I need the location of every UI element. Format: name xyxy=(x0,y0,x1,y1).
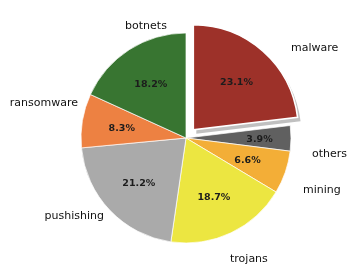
value-label-botnets: 18.2% xyxy=(134,78,167,89)
value-label-pushishing: 21.2% xyxy=(122,177,155,188)
value-label-ransomware: 8.3% xyxy=(109,122,136,133)
category-label-botnets: botnets xyxy=(125,19,167,32)
value-label-mining: 6.6% xyxy=(234,154,261,165)
value-label-trojans: 18.7% xyxy=(197,191,230,202)
category-label-ransomware: ransomware xyxy=(10,96,78,109)
category-label-malware: malware xyxy=(291,41,339,54)
pie-chart-figure: 23.1% 3.9% 6.6% 18.7% 21.2% 8.3% 18.2% m… xyxy=(0,0,361,273)
pie-chart-canvas: 23.1% 3.9% 6.6% 18.7% 21.2% 8.3% 18.2% m… xyxy=(0,0,361,273)
category-label-pushishing: pushishing xyxy=(45,209,104,222)
category-label-trojans: trojans xyxy=(230,252,268,265)
category-label-mining: mining xyxy=(303,183,341,196)
value-label-others: 3.9% xyxy=(246,133,273,144)
category-label-others: others xyxy=(312,147,347,160)
value-label-malware: 23.1% xyxy=(220,76,253,87)
